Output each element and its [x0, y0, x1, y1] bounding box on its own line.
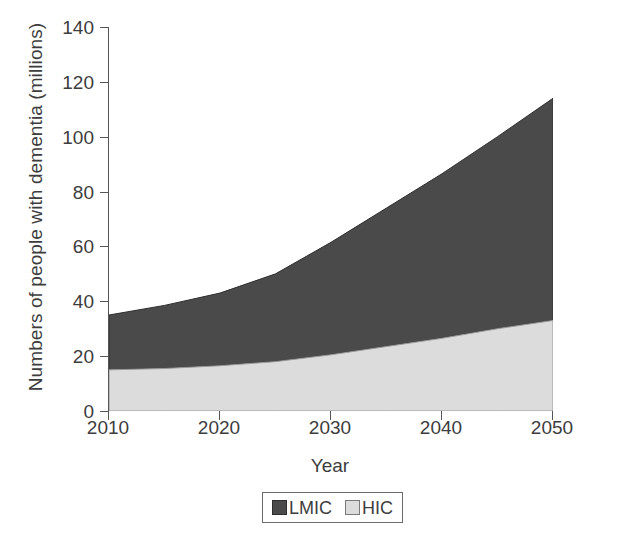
y-tick-label-wrap: 100	[42, 137, 94, 138]
legend-item-lmic: LMIC	[272, 499, 332, 517]
legend-label: HIC	[362, 499, 393, 517]
x-tick-label: 2040	[401, 418, 481, 437]
legend-label: LMIC	[289, 499, 332, 517]
x-tick-label: 2030	[290, 418, 370, 437]
y-tick-label-wrap: 120	[42, 82, 94, 83]
y-tick-label: 100	[46, 127, 94, 146]
y-tick-label-wrap: 140	[42, 27, 94, 28]
x-tick-label: 2010	[68, 418, 148, 437]
y-tick-label: 20	[46, 347, 94, 366]
chart-legend: LMICHIC	[262, 492, 403, 523]
x-tick-label: 2020	[179, 418, 259, 437]
y-tick-label: 80	[46, 182, 94, 201]
chart-figure: Numbers of people with dementia (million…	[0, 0, 620, 543]
y-tick-label: 120	[46, 72, 94, 91]
y-tick-label: 60	[46, 237, 94, 256]
legend-swatch-icon	[345, 500, 360, 515]
y-axis-title: Numbers of people with dementia (million…	[25, 7, 47, 407]
y-tick-label: 40	[46, 292, 94, 311]
y-tick-label-wrap: 20	[42, 356, 94, 357]
x-axis-title: Year	[108, 455, 552, 477]
area-chart-svg	[109, 27, 553, 411]
y-tick-label-wrap: 60	[42, 246, 94, 247]
y-tick-label-wrap: 80	[42, 192, 94, 193]
x-tick-label: 2050	[512, 418, 592, 437]
series-area-lmic	[109, 98, 553, 370]
legend-swatch-icon	[272, 500, 287, 515]
y-tick-label-wrap: 0	[42, 411, 94, 412]
y-tick-label-wrap: 40	[42, 301, 94, 302]
legend-item-hic: HIC	[345, 499, 393, 517]
plot-area	[108, 27, 552, 411]
y-tick-label: 140	[46, 18, 94, 37]
